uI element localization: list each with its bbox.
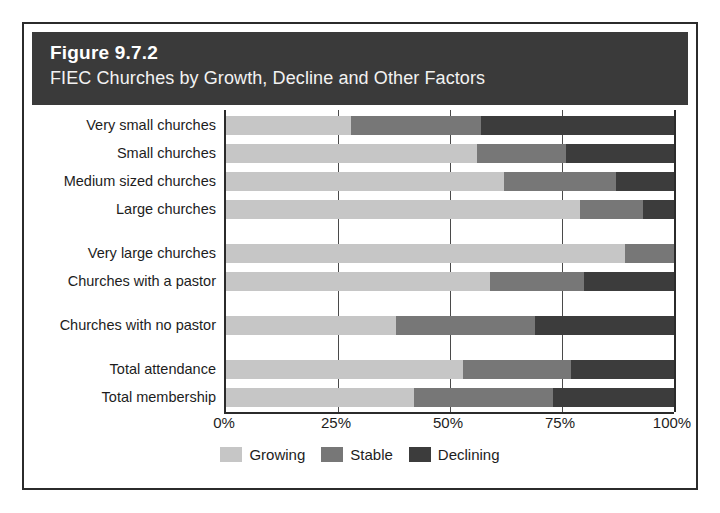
bar-row xyxy=(226,172,674,191)
bar-row xyxy=(226,360,674,379)
x-tick-label: 75% xyxy=(545,414,575,431)
axis-right-border xyxy=(674,110,676,412)
bar-segment-declining xyxy=(553,388,674,407)
figure-header: Figure 9.7.2 FIEC Churches by Growth, De… xyxy=(32,32,688,105)
bar-segment-declining xyxy=(481,116,674,135)
legend-label: Stable xyxy=(350,446,393,463)
bar-segment-stable xyxy=(580,200,643,219)
bar-segment-stable xyxy=(477,144,567,163)
x-tick-label: 0% xyxy=(213,414,235,431)
category-label: Churches with a pastor xyxy=(68,273,216,289)
bar-segment-growing xyxy=(226,116,351,135)
legend-item-growing[interactable]: Growing xyxy=(220,446,305,463)
figure-number: Figure 9.7.2 xyxy=(50,41,688,65)
chart-area: Very small churchesSmall churchesMedium … xyxy=(24,110,696,412)
category-label: Churches with no pastor xyxy=(60,317,216,333)
category-label: Total membership xyxy=(102,389,216,405)
legend-item-stable[interactable]: Stable xyxy=(321,446,393,463)
plot-wrapper: Very small churchesSmall churchesMedium … xyxy=(24,110,696,488)
legend-swatch-icon xyxy=(409,447,431,462)
category-label: Large churches xyxy=(116,201,216,217)
bar-segment-declining xyxy=(616,172,674,191)
x-axis-tick-labels: 0%25%50%75%100% xyxy=(224,414,672,438)
bar-segment-declining xyxy=(584,272,674,291)
x-tick-label: 100% xyxy=(653,414,691,431)
legend-swatch-icon xyxy=(321,447,343,462)
legend-item-declining[interactable]: Declining xyxy=(409,446,500,463)
bar-segment-growing xyxy=(226,272,490,291)
bar-segment-stable xyxy=(414,388,553,407)
bar-row xyxy=(226,200,674,219)
bar-segment-growing xyxy=(226,316,396,335)
bar-segment-growing xyxy=(226,244,625,263)
bar-segment-growing xyxy=(226,360,463,379)
x-tick-label: 50% xyxy=(433,414,463,431)
bar-segment-stable xyxy=(625,244,674,263)
figure-title: FIEC Churches by Growth, Decline and Oth… xyxy=(50,65,688,91)
bar-row xyxy=(226,116,674,135)
chart-legend: GrowingStableDeclining xyxy=(24,446,696,463)
bar-segment-growing xyxy=(226,200,580,219)
x-tick-label: 25% xyxy=(321,414,351,431)
bar-segment-stable xyxy=(396,316,535,335)
bar-segment-stable xyxy=(463,360,571,379)
category-label: Very large churches xyxy=(88,245,216,261)
category-label: Very small churches xyxy=(86,117,216,133)
bar-segment-growing xyxy=(226,172,504,191)
legend-label: Growing xyxy=(249,446,305,463)
bar-segment-growing xyxy=(226,144,477,163)
category-label: Small churches xyxy=(117,145,216,161)
bar-segment-stable xyxy=(351,116,481,135)
bar-row xyxy=(226,272,674,291)
bar-segment-declining xyxy=(566,144,674,163)
category-axis-labels: Very small churchesSmall churchesMedium … xyxy=(24,110,224,412)
bar-segment-stable xyxy=(490,272,584,291)
bar-segment-declining xyxy=(643,200,674,219)
bar-row xyxy=(226,316,674,335)
bar-row xyxy=(226,244,674,263)
bar-segment-declining xyxy=(571,360,674,379)
plot-axes xyxy=(224,110,674,414)
legend-swatch-icon xyxy=(220,447,242,462)
bar-row xyxy=(226,144,674,163)
category-label: Total attendance xyxy=(110,361,216,377)
legend-label: Declining xyxy=(438,446,500,463)
bar-segment-declining xyxy=(535,316,674,335)
category-label: Medium sized churches xyxy=(64,173,216,189)
figure-panel: Figure 9.7.2 FIEC Churches by Growth, De… xyxy=(22,22,698,490)
bar-segment-stable xyxy=(504,172,616,191)
bar-row xyxy=(226,388,674,407)
bar-segment-growing xyxy=(226,388,414,407)
